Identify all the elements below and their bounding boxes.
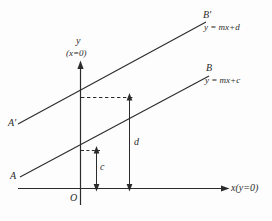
label-y-axis: y xyxy=(76,36,80,46)
label-intercept-c: c xyxy=(100,162,104,172)
x-axis-line xyxy=(18,185,230,191)
upper-line-segment xyxy=(18,22,206,124)
label-origin: O xyxy=(70,193,77,203)
line-diagram-figure: B' y = mx+d B y = mx+c A' A y (x=0) x(y=… xyxy=(0,0,272,221)
label-b: B xyxy=(206,63,212,73)
label-equation-upper: y = mx+d xyxy=(204,23,240,32)
label-x-axis: x(y=0) xyxy=(231,183,258,193)
label-b-prime: B' xyxy=(203,10,211,20)
label-a-prime: A' xyxy=(8,118,16,128)
label-a: A xyxy=(10,171,16,181)
label-intercept-d: d xyxy=(134,137,139,147)
label-y-axis-condition: (x=0) xyxy=(66,49,87,58)
lower-line-segment xyxy=(20,76,209,177)
y-axis-line xyxy=(77,61,83,206)
intercept-c-arrow xyxy=(94,146,100,192)
label-equation-lower: y = mx+c xyxy=(205,76,240,85)
intercept-d-arrow xyxy=(127,93,133,192)
